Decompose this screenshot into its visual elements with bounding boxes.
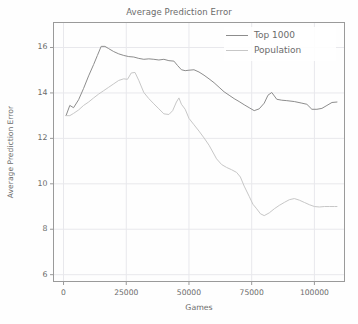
x-tick-label: 50000 bbox=[159, 288, 219, 297]
series-lines bbox=[66, 46, 337, 215]
y-tick-label: 8 bbox=[24, 224, 48, 233]
y-tick-label: 16 bbox=[24, 42, 48, 51]
x-tick-label: 25000 bbox=[96, 288, 156, 297]
y-tick-label: 12 bbox=[24, 133, 48, 142]
legend-swatch-population bbox=[226, 50, 248, 51]
plot-frame bbox=[54, 23, 345, 282]
axis-ticks bbox=[50, 47, 314, 285]
x-tick-label: 0 bbox=[34, 288, 94, 297]
chart-figure: Average Prediction Error Average Predict… bbox=[0, 0, 358, 324]
y-tick-label: 14 bbox=[24, 88, 48, 97]
y-tick-label: 10 bbox=[24, 179, 48, 188]
y-tick-label: 6 bbox=[24, 270, 48, 279]
legend-swatch-top-1000 bbox=[226, 35, 248, 36]
gridlines bbox=[54, 23, 345, 282]
chart-legend: Top 1000 Population bbox=[224, 27, 336, 61]
legend-label-population: Population bbox=[254, 45, 301, 55]
legend-item-top-1000: Top 1000 bbox=[224, 28, 295, 42]
x-tick-label: 100000 bbox=[284, 288, 344, 297]
x-tick-label: 75000 bbox=[222, 288, 282, 297]
legend-label-top-1000: Top 1000 bbox=[254, 30, 295, 40]
legend-item-population: Population bbox=[224, 43, 301, 57]
